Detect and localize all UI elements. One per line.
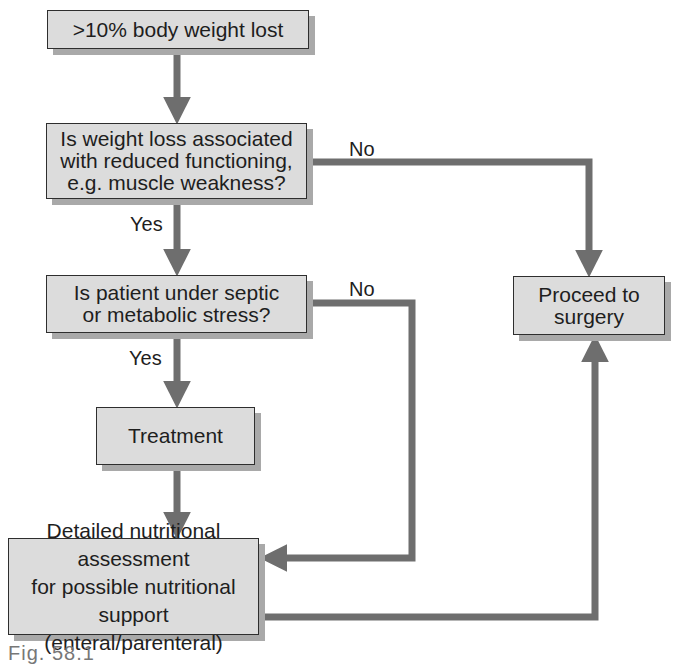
node-text-line: Detailed nutritional assessment	[9, 517, 258, 573]
node-text-line: with reduced functioning,	[60, 150, 292, 172]
node-assessment: Detailed nutritional assessment for poss…	[8, 538, 259, 635]
node-text-line: Is weight loss associated	[60, 128, 292, 150]
edge-label-functioning-no: No	[349, 138, 375, 161]
node-surgery: Proceed to surgery	[513, 276, 665, 335]
node-text-line: for possible nutritional support	[9, 573, 258, 629]
node-start: >10% body weight lost	[47, 10, 309, 49]
arrow-stress-no-to-assessment	[272, 303, 412, 558]
node-question-functioning: Is weight loss associated with reduced f…	[46, 123, 307, 199]
node-treatment-text: Treatment	[128, 425, 223, 447]
node-treatment: Treatment	[96, 407, 255, 465]
edge-label-stress-yes: Yes	[129, 347, 162, 370]
arrow-assessment-to-surgery	[259, 347, 595, 617]
node-text-line: or metabolic stress?	[74, 304, 279, 326]
arrow-functioning-no-to-surgery	[307, 162, 589, 265]
edge-label-stress-no: No	[349, 278, 375, 301]
node-text-line: e.g. muscle weakness?	[60, 172, 292, 194]
node-text-line: Proceed to	[538, 284, 640, 306]
node-start-text: >10% body weight lost	[73, 19, 284, 41]
figure-caption: Fig. 58.1	[8, 642, 95, 665]
edge-label-functioning-yes: Yes	[130, 213, 163, 236]
node-text-line: surgery	[538, 306, 640, 328]
node-text-line: Is patient under septic	[74, 282, 279, 304]
node-question-stress: Is patient under septic or metabolic str…	[46, 275, 307, 333]
